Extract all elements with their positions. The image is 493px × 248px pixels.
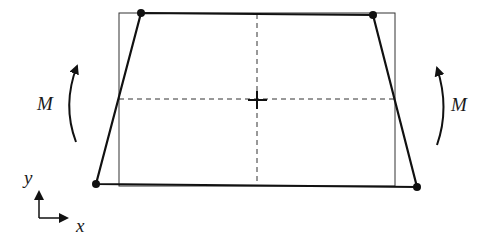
centroid-cross-icon <box>248 91 267 109</box>
moment-arrow-left-icon <box>69 66 77 142</box>
diagram-canvas: M M y x <box>0 0 493 248</box>
node-top-right <box>369 11 377 19</box>
axis-label-x: x <box>75 215 85 236</box>
axis-label-y: y <box>22 167 33 188</box>
moment-label-left: M <box>36 93 54 114</box>
moment-label-right: M <box>450 94 468 115</box>
deformation-diagram: M M y x <box>0 0 493 248</box>
node-bottom-right <box>413 183 421 191</box>
moment-arrow-right-icon <box>437 68 444 145</box>
node-top-left <box>137 9 145 17</box>
node-bottom-left <box>92 180 100 188</box>
coordinate-axes-icon <box>39 192 67 218</box>
